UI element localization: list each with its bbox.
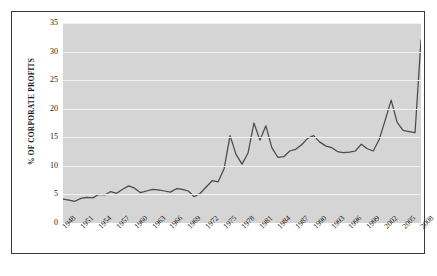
chart-plot-wrapper: % OF CORPORATE PROFITS 05101520253035 19… — [12, 12, 424, 253]
data-series-line — [63, 23, 421, 223]
plot-area — [63, 23, 421, 223]
gridline — [63, 23, 421, 24]
y-tick-label: 35 — [26, 19, 58, 27]
y-tick-label: 0 — [26, 219, 58, 227]
y-tick-label: 5 — [26, 190, 58, 198]
y-tick-label: 30 — [26, 48, 58, 56]
gridline — [63, 166, 421, 167]
y-tick-label: 10 — [26, 162, 58, 170]
y-tick-label: 25 — [26, 76, 58, 84]
x-tick-label: 2008 — [419, 214, 435, 230]
gridline — [63, 109, 421, 110]
gridline — [63, 194, 421, 195]
gridline — [63, 137, 421, 138]
y-tick-label: 20 — [26, 105, 58, 113]
x-axis-tick-labels: 1948195119541957196019631966196919721975… — [63, 225, 421, 255]
chart-figure: % OF CORPORATE PROFITS 05101520253035 19… — [11, 11, 425, 254]
gridline — [63, 80, 421, 81]
y-axis-tick-labels: 05101520253035 — [26, 12, 58, 255]
y-tick-label: 15 — [26, 133, 58, 141]
gridline — [63, 52, 421, 53]
